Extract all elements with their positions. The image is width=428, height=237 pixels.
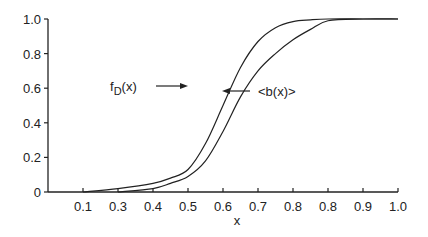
y-tick-label: 0.6 [23,81,41,96]
y-tick-label: 0.8 [23,47,41,62]
tick-labels: 00.20.40.60.81.00.10.30.40.50.60.70.80.8… [23,12,407,214]
x-tick-label: 0.8 [284,199,302,214]
arrowhead-right-icon [180,83,188,89]
x-tick-label: 0.7 [249,199,267,214]
x-axis-label: x [234,213,241,228]
x-tick-label: 0.8 [319,199,337,214]
plot-area [83,19,398,192]
x-tick-label: 0.3 [109,199,127,214]
annotation-bx: <b(x)> [222,84,296,99]
x-tick-label: 0.1 [74,199,92,214]
curve-fd [83,19,398,192]
x-tick-label: 0.9 [354,199,372,214]
annotation-bx-label: <b(x)> [258,84,296,99]
curve-bx [118,19,398,192]
cdf-chart: 00.20.40.60.81.00.10.30.40.50.60.70.80.8… [0,0,428,237]
y-tick-label: 0.2 [23,150,41,165]
x-tick-label: 0.5 [179,199,197,214]
y-tick-label: 1.0 [23,12,41,27]
y-tick-label: 0 [34,185,41,200]
y-tick-label: 0.4 [23,116,41,131]
annotation-fd: fD(x) [110,79,188,97]
annotation-fd-label: fD(x) [110,79,137,97]
x-tick-label: 0.6 [214,199,232,214]
x-tick-label: 0.4 [144,199,162,214]
arrowhead-left-icon [222,88,230,94]
x-tick-label: 1.0 [389,199,407,214]
